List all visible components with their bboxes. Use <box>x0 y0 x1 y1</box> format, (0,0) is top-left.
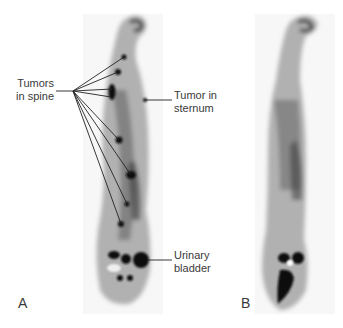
label-line: sternum <box>174 102 217 115</box>
panel-letter-b: B <box>241 295 250 311</box>
label-tumor-in-sternum: Tumor in sternum <box>174 89 217 115</box>
label-tumors-in-spine: Tumors in spine <box>14 77 54 103</box>
label-line: Tumor in <box>174 89 217 102</box>
label-line: Urinary <box>174 249 211 262</box>
label-line: Tumors <box>14 77 54 90</box>
panel-letter-a: A <box>18 295 27 311</box>
label-line: in spine <box>14 90 54 103</box>
scan-illustration <box>0 0 343 328</box>
label-line: bladder <box>174 262 211 275</box>
label-urinary-bladder: Urinary bladder <box>174 249 211 275</box>
